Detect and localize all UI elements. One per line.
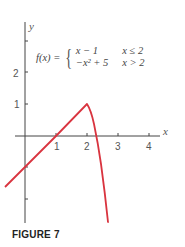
formula-case-2-expr: −x² + 5 bbox=[76, 57, 108, 69]
y-tick-label-1: 1 bbox=[14, 99, 20, 110]
linear-piece-curve bbox=[5, 104, 87, 187]
quadratic-piece-curve bbox=[87, 104, 108, 222]
chart-plot: 1 2 3 4 1 2 x y bbox=[0, 0, 185, 247]
brace-icon: { bbox=[66, 45, 73, 69]
x-tick-label-3: 3 bbox=[115, 141, 121, 152]
formula-case-2-cond: x > 2 bbox=[122, 57, 144, 69]
figure-caption: FIGURE 7 bbox=[12, 229, 60, 240]
x-tick-label-1: 1 bbox=[54, 141, 60, 152]
formula-case-1-cond: x ≤ 2 bbox=[122, 45, 144, 57]
y-tick-label-2: 2 bbox=[13, 68, 19, 79]
formula-lhs: f(x) = bbox=[36, 52, 60, 63]
x-tick-label-2: 2 bbox=[84, 141, 90, 152]
formula-cases: x − 1 x ≤ 2 −x² + 5 x > 2 bbox=[76, 45, 145, 69]
y-axis-label: y bbox=[28, 20, 34, 32]
piecewise-formula: f(x) = { x − 1 x ≤ 2 −x² + 5 x > 2 bbox=[36, 45, 145, 69]
x-tick-label-4: 4 bbox=[146, 141, 152, 152]
formula-case-1-expr: x − 1 bbox=[76, 45, 108, 57]
x-axis-label: x bbox=[162, 125, 168, 137]
